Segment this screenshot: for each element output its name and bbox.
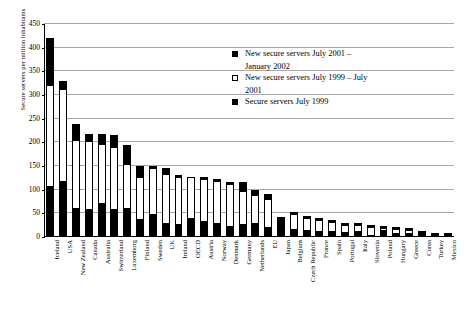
bar-column[interactable] — [46, 24, 54, 237]
bar-segment — [251, 190, 259, 195]
x-label-text: Poland — [386, 240, 393, 258]
x-label-text: Austria — [207, 240, 214, 259]
bar-segment — [85, 134, 93, 141]
bar-column[interactable] — [72, 24, 80, 237]
bar-column[interactable] — [110, 24, 118, 237]
y-tick-mark-250 — [42, 119, 45, 120]
bar-segment — [264, 228, 272, 237]
y-tick-label-50: 50 — [33, 209, 41, 217]
x-label-text: France — [322, 240, 329, 258]
bar-column[interactable] — [98, 24, 106, 237]
x-axis-label: Japan — [284, 240, 291, 255]
bar-column[interactable] — [187, 24, 195, 237]
bar-segment — [110, 135, 118, 147]
x-axis-label: Greece — [412, 240, 419, 259]
bar-segment — [290, 230, 298, 237]
y-tick-label-400: 400 — [29, 44, 40, 52]
x-axis-label: Czech Republic — [309, 240, 316, 282]
bar-segment — [200, 177, 208, 179]
bar-segment — [46, 38, 54, 84]
bar-segment — [175, 175, 183, 177]
x-axis-label: Corea — [425, 240, 432, 256]
x-axis-label: Poland — [386, 240, 393, 258]
bar-segment — [341, 225, 349, 234]
bar-segment — [315, 218, 323, 220]
bar-segment — [341, 223, 349, 225]
bar-segment — [149, 166, 157, 168]
bar-column[interactable] — [149, 24, 157, 237]
x-axis-label: Slovenia — [373, 240, 380, 263]
bar-segment — [136, 177, 144, 221]
bar-segment — [110, 210, 118, 237]
bar-segment — [405, 230, 413, 234]
bar-column[interactable] — [123, 24, 131, 237]
bar-segment — [354, 223, 362, 225]
bar-segment — [290, 212, 298, 214]
bar-segment — [226, 182, 234, 184]
x-axis-label: Norway — [220, 240, 227, 261]
bar-segment — [341, 233, 349, 237]
bar-column[interactable] — [162, 24, 170, 237]
x-label-text: Italy — [361, 240, 368, 252]
bar-column[interactable] — [175, 24, 183, 237]
x-label-text: Netherlands — [258, 240, 265, 272]
x-axis-label: OECD — [194, 240, 201, 258]
bar-segment — [367, 227, 375, 236]
x-axis-label: Austria — [207, 240, 214, 259]
y-tick-mark-0 — [42, 237, 45, 238]
bar-segment — [418, 233, 426, 235]
bar-segment — [59, 89, 67, 181]
bar-segment — [123, 145, 131, 163]
bar-segment — [149, 168, 157, 215]
bar-segment — [136, 166, 144, 177]
bar-column[interactable] — [85, 24, 93, 237]
x-axis-label: Finland — [143, 240, 150, 260]
legend-item[interactable]: New secure servers July 1999 – July — [232, 72, 460, 84]
bar-segment — [354, 225, 362, 233]
bar-segment — [405, 234, 413, 237]
bar-segment — [277, 217, 285, 237]
y-tick-label-0: 0 — [36, 233, 40, 241]
x-axis-label: Belgium — [296, 240, 303, 263]
bar-column[interactable] — [136, 24, 144, 237]
x-label-text: Germany — [245, 240, 252, 265]
x-label-text: Czech Republic — [309, 240, 316, 282]
legend-item[interactable]: New secure servers July 2001 – — [232, 48, 460, 60]
x-axis-label: Luxemborg — [130, 240, 137, 271]
bar-segment — [239, 225, 247, 237]
bar-segment — [315, 220, 323, 232]
x-axis-label: Iceland — [53, 240, 60, 259]
bar-segment — [264, 194, 272, 198]
x-label-text: Ireland — [181, 240, 188, 259]
legend-label: New secure servers July 1999 – July — [245, 73, 367, 82]
bar-segment — [110, 147, 118, 210]
x-axis-label: Turkey — [437, 240, 444, 259]
legend-item[interactable]: Secure servers July 1999 — [232, 96, 460, 108]
bar-segment — [290, 214, 298, 230]
secure-servers-chart-figure: Secure servers per million inhabitants 0… — [0, 0, 468, 309]
bar-segment — [354, 232, 362, 237]
bar-segment — [303, 218, 311, 231]
x-label-text: Spain — [335, 240, 342, 255]
bar-segment — [72, 140, 80, 209]
bar-segment — [162, 168, 170, 174]
bar-segment — [239, 191, 247, 225]
legend-swatch-dark — [232, 99, 238, 105]
bar-column[interactable] — [213, 24, 221, 237]
bar-column[interactable] — [59, 24, 67, 237]
x-label-text: Mexico — [450, 240, 457, 260]
bar-segment — [328, 232, 336, 237]
y-axis-line — [44, 24, 45, 237]
bar-segment — [431, 233, 439, 235]
bar-segment — [162, 224, 170, 237]
bar-segment — [200, 222, 208, 237]
x-axis-label: Sweden — [156, 240, 163, 261]
bar-segment — [213, 181, 221, 224]
x-axis-label: Mexico — [450, 240, 457, 260]
y-tick-label-350: 350 — [29, 67, 40, 75]
bar-segment — [59, 182, 67, 237]
bar-column[interactable] — [200, 24, 208, 237]
y-tick-label-100: 100 — [29, 186, 40, 194]
bar-segment — [251, 195, 259, 224]
bar-segment — [213, 224, 221, 237]
